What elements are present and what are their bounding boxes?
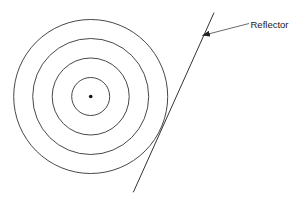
wavefront-diagram: Reflector: [0, 0, 300, 200]
reflector-label: Reflector: [251, 19, 289, 30]
reflector-line: [133, 13, 214, 193]
label-arrow: [203, 24, 250, 36]
point-source: [89, 95, 93, 99]
